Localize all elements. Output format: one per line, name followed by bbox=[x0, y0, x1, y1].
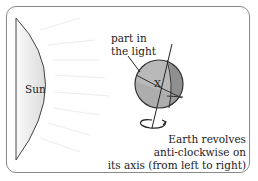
sun-label: Sun bbox=[25, 83, 46, 96]
point-x-label: X bbox=[154, 77, 161, 90]
light-label-line1: part in bbox=[111, 32, 156, 45]
pointer-line bbox=[128, 56, 140, 72]
part-in-light-label: part in the light bbox=[111, 32, 156, 58]
caption-line1: Earth revolves bbox=[108, 133, 246, 146]
sun-rays-icon bbox=[40, 18, 110, 152]
caption-line2: anti-clockwise on bbox=[108, 146, 246, 159]
light-label-line2: the light bbox=[111, 45, 156, 58]
caption-line3: its axis (from left to right) bbox=[108, 159, 246, 172]
rotation-caption: Earth revolves anti-clockwise on its axi… bbox=[108, 133, 246, 172]
